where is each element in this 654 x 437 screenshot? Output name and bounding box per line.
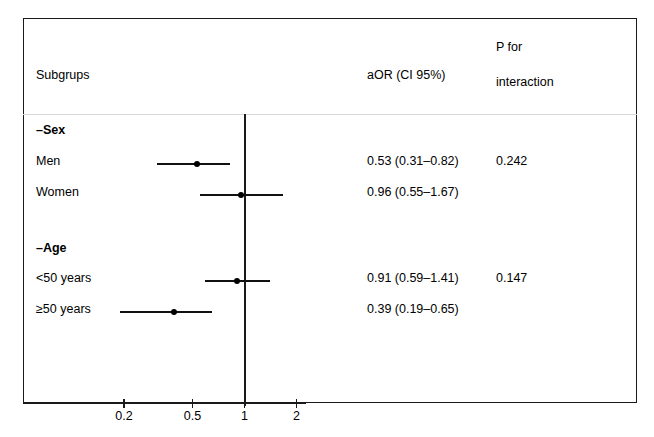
x-axis-tick-1 — [244, 399, 245, 408]
x-axis-line — [23, 402, 306, 404]
aor-value-men: 0.53 (0.31–0.82) — [367, 154, 459, 168]
column-header-aor: aOR (CI 95%) — [367, 66, 446, 84]
subgroup-header-sex: –Sex — [36, 123, 65, 137]
ci-line-50-years — [120, 311, 212, 313]
subgroup-label-lt50: <50 years — [36, 271, 91, 285]
aor-value-women: 0.96 (0.55–1.67) — [367, 185, 459, 199]
point-estimate-50-years — [171, 309, 177, 315]
header-separator-line — [23, 114, 637, 115]
x-axis-tick-0.2 — [123, 399, 124, 408]
subgroup-label-men: Men — [36, 154, 60, 168]
x-axis-tick-label-0.5: 0.5 — [184, 409, 201, 423]
subgroup-label-gte50: ≥50 years — [36, 302, 91, 316]
aor-value-lt50: 0.91 (0.59–1.41) — [367, 271, 459, 285]
subgroup-header-age: –Age — [36, 241, 67, 255]
x-axis-tick-label-0.2: 0.2 — [115, 409, 132, 423]
p-interaction-value-sex: 0.242 — [496, 154, 527, 168]
column-header-subgroups: Subgrups — [36, 66, 90, 84]
x-axis-tick-0.5 — [192, 399, 193, 408]
x-axis-tick-2 — [296, 399, 297, 408]
aor-value-gte50: 0.39 (0.19–0.65) — [367, 302, 459, 316]
subgroup-label-women: Women — [36, 185, 79, 199]
column-header-p-interaction-line2: interaction — [496, 73, 616, 91]
x-axis-tick-label-2: 2 — [293, 409, 300, 423]
null-reference-line — [244, 114, 246, 406]
column-header-p-interaction: P for interaction — [496, 38, 616, 91]
column-header-p-interaction-line1: P for — [496, 38, 616, 56]
p-interaction-value-age: 0.147 — [496, 271, 527, 285]
x-axis-tick-label-1: 1 — [241, 409, 248, 423]
forest-plot-figure: Subgrups aOR (CI 95%) P for interaction … — [0, 0, 654, 437]
point-estimate-men — [194, 161, 200, 167]
